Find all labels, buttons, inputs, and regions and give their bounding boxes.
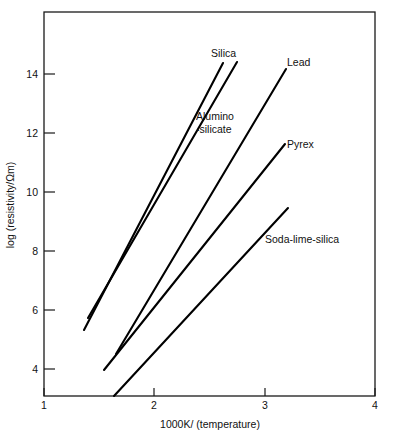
- series-label-alumino: Alumino: [196, 110, 234, 122]
- x-tick-label-2: 2: [151, 399, 157, 411]
- y-tick-label-10: 10: [26, 186, 38, 198]
- series-line-pyrex: [104, 144, 285, 370]
- series-label-silica: Silica: [211, 47, 236, 59]
- x-axis-ticks: [44, 388, 375, 396]
- series-line-soda-lime-silica: [114, 208, 288, 396]
- series-label-soda-lime-silica: Soda-lime-silica: [265, 233, 339, 245]
- series-label-lead: Lead: [287, 56, 311, 68]
- resistivity-chart: 1 2 3 4 4 6 8 10 12 14 1000K/ (temperatu…: [0, 0, 406, 437]
- series-label-pyrex: Pyrex: [287, 138, 315, 150]
- chart-figure: 1 2 3 4 4 6 8 10 12 14 1000K/ (temperatu…: [0, 0, 406, 437]
- x-axis-title: 1000K/ (temperature): [160, 418, 260, 430]
- x-tick-label-1: 1: [41, 399, 47, 411]
- series-label-silicate: -silicate: [196, 123, 232, 135]
- y-axis-ticks: [44, 74, 55, 369]
- x-tick-label-4: 4: [372, 399, 378, 411]
- y-tick-label-8: 8: [32, 245, 38, 257]
- x-tick-label-3: 3: [262, 399, 268, 411]
- y-axis-title: log (resistivity/Ωm): [4, 162, 16, 249]
- y-tick-label-12: 12: [26, 127, 38, 139]
- y-tick-label-14: 14: [26, 68, 38, 80]
- data-series-group: [84, 62, 288, 396]
- y-tick-label-4: 4: [32, 363, 38, 375]
- plot-frame: [44, 12, 375, 396]
- y-tick-label-6: 6: [32, 304, 38, 316]
